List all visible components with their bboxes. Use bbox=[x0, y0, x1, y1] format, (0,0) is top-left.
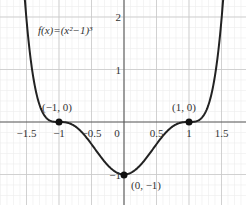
y-tick-label: −1 bbox=[109, 169, 121, 181]
x-tick-label: 0 bbox=[114, 127, 120, 139]
x-tick-label: −0.5 bbox=[82, 127, 102, 139]
point-marker bbox=[186, 119, 193, 126]
point-marker bbox=[56, 119, 63, 126]
x-tick-label: −1.5 bbox=[17, 127, 37, 139]
point-label: (0, −1) bbox=[131, 179, 161, 192]
x-tick-label: 0.5 bbox=[150, 127, 164, 139]
x-tick-label: 1.5 bbox=[215, 127, 229, 139]
y-tick-label: 2 bbox=[116, 11, 122, 23]
function-plot: −1.5−1−0.500.511.5 21−1 f(x)=(x²−1)³ (−1… bbox=[0, 0, 246, 205]
x-tick-label: 1 bbox=[186, 127, 192, 139]
x-tick-label: −1 bbox=[53, 127, 65, 139]
point-marker bbox=[121, 172, 128, 179]
function-label: f(x)=(x²−1)³ bbox=[38, 24, 93, 37]
x-tick-labels: −1.5−1−0.500.511.5 bbox=[17, 127, 229, 139]
point-label: (−1, 0) bbox=[42, 101, 72, 114]
y-tick-label: 1 bbox=[116, 64, 122, 76]
point-label: (1, 0) bbox=[172, 101, 196, 114]
